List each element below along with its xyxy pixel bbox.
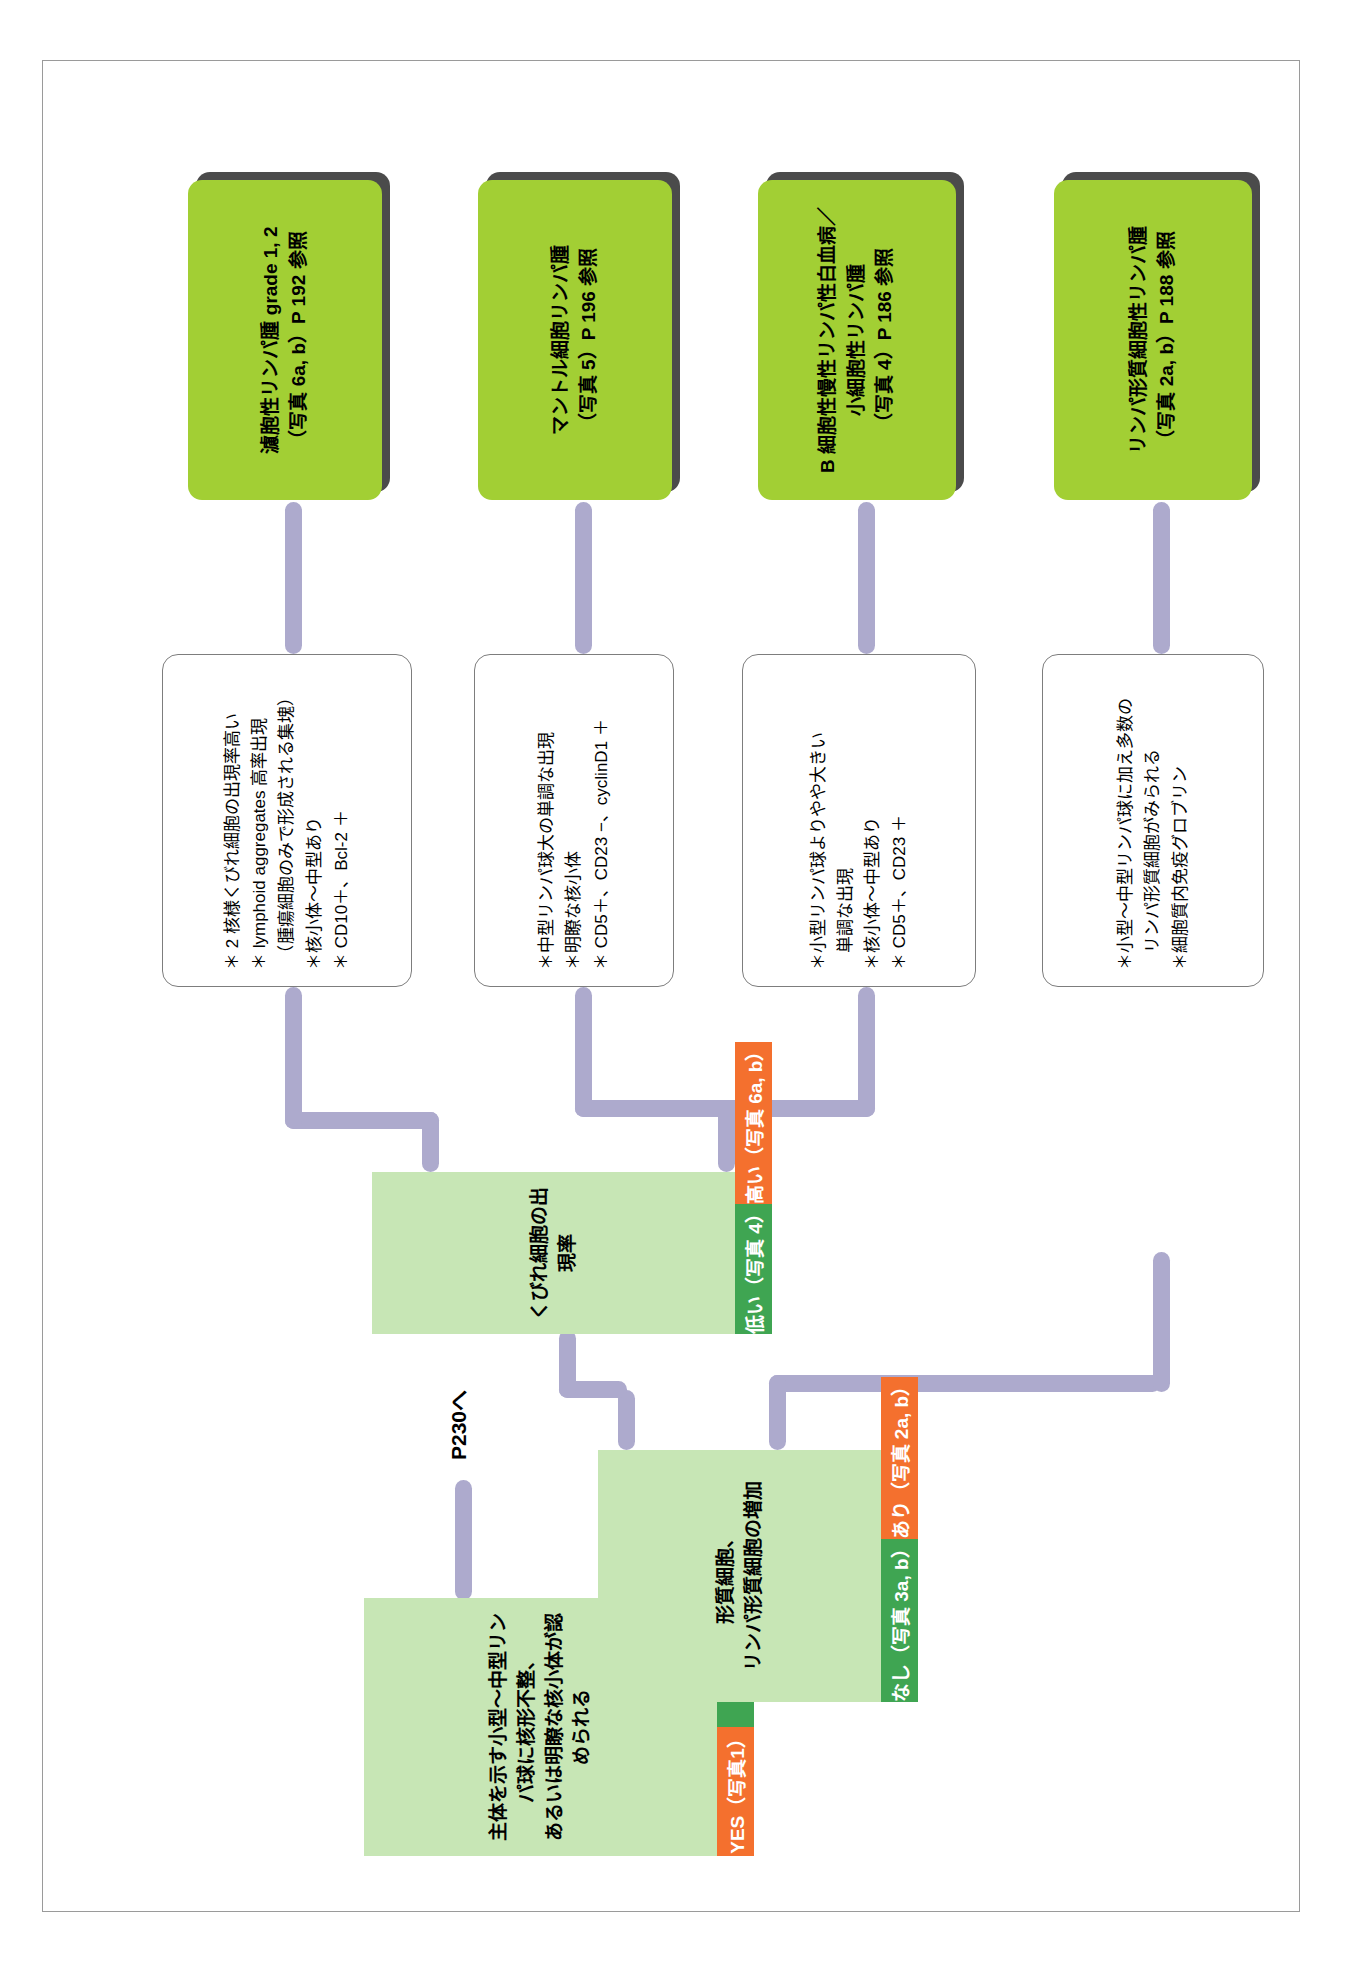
feature-3-line-1: ＊明瞭な核小体 (560, 671, 587, 970)
connector-f4-r4 (285, 502, 302, 654)
connector-f1-r1 (1153, 502, 1170, 654)
decision-3-question: くびれ細胞の出現率 (372, 1172, 735, 1334)
screenshot-page: 主体を示す小型〜中型リンパ球に核形不整、 あるいは明瞭な核小体が認められる YE… (0, 0, 1356, 1970)
result-box-4[interactable]: 濾胞性リンパ腫 grade 1, 2 （写真 6a, b）P 192 参照 (188, 180, 382, 500)
connector-d3-low-vert (575, 1100, 875, 1117)
connector-d3-low-to-f2 (858, 987, 875, 1117)
decision-2-answers: なし（写真 3a, b） あり（写真 2a, b） (881, 1450, 918, 1702)
feature-4-list: ＊ 2 核様くびれ細胞の出現率高い ＊ lymphoid aggregates … (219, 671, 355, 970)
decision-2-yes-bar[interactable]: あり（写真 2a, b） (881, 1377, 918, 1540)
connector-d1-no (455, 1480, 472, 1600)
connector-d2-no-stub (618, 1390, 635, 1450)
feature-4-line-4: ＊ CD10＋、Bcl-2 ＋ (328, 671, 355, 970)
feature-2-list: ＊小型リンパ球よりやや大きい 単調な出現 ＊核小体〜中型あり ＊ CD5＋、CD… (805, 671, 914, 970)
feature-1-line-2: ＊細胞質内免疫グロブリン (1167, 671, 1194, 970)
connector-d2-yes-horz (1153, 1252, 1170, 1392)
feature-box-3: ＊中型リンパ球大の単調な出現 ＊明瞭な核小体 ＊ CD5＋、CD23 −、cyc… (474, 654, 674, 987)
result-box-1[interactable]: リンパ形質細胞性リンパ腫 （写真 2a, b）P 188 参照 (1054, 180, 1252, 500)
connector-d2-yes-stub (769, 1375, 786, 1450)
feature-3-list: ＊中型リンパ球大の単調な出現 ＊明瞭な核小体 ＊ CD5＋、CD23 −、cyc… (533, 671, 615, 970)
feature-3-line-0: ＊中型リンパ球大の単調な出現 (533, 671, 560, 970)
feature-2-line-2: ＊核小体〜中型あり (859, 671, 886, 970)
connector-d3-low-to-f3 (575, 987, 592, 1117)
feature-1-line-0: ＊小型〜中型リンパ球に加え多数の (1112, 671, 1139, 970)
decision-2-question: 形質細胞、 リンパ形質細胞の増加 (598, 1450, 881, 1702)
connector-f3-r3 (575, 502, 592, 654)
feature-4-line-0: ＊ 2 核様くびれ細胞の出現率高い (219, 671, 246, 970)
flowchart-canvas: 主体を示す小型〜中型リンパ球に核形不整、 あるいは明瞭な核小体が認められる YE… (42, 60, 1300, 1912)
connector-d2-no-horz (559, 1330, 576, 1398)
diagram-viewport: 主体を示す小型〜中型リンパ球に核形不整、 あるいは明瞭な核小体が認められる YE… (42, 60, 1300, 1912)
result-box-3[interactable]: マントル細胞リンパ腫 （写真 5）P 196 参照 (478, 180, 672, 500)
decision-3-answers: 低い（写真 4） 高い（写真 6a, b） (735, 1172, 772, 1334)
feature-3-line-2: ＊ CD5＋、CD23 −、cyclinD1 ＋ (588, 671, 615, 970)
feature-2-line-0: ＊小型リンパ球よりやや大きい (805, 671, 832, 970)
feature-4-line-2: （腫瘍細胞のみで形成される集塊） (273, 671, 300, 970)
feature-box-1: ＊小型〜中型リンパ球に加え多数の リンパ形質細胞がみられる ＊細胞質内免疫グロブ… (1042, 654, 1264, 987)
connector-d3-high-horz (285, 987, 302, 1129)
feature-1-line-1: リンパ形質細胞がみられる (1139, 671, 1166, 970)
feature-box-4: ＊ 2 核様くびれ細胞の出現率高い ＊ lymphoid aggregates … (162, 654, 412, 987)
feature-box-2: ＊小型リンパ球よりやや大きい 単調な出現 ＊核小体〜中型あり ＊ CD5＋、CD… (742, 654, 976, 987)
decision-1-yes-bar[interactable]: YES（写真1） (717, 1727, 754, 1856)
feature-1-list: ＊小型〜中型リンパ球に加え多数の リンパ形質細胞がみられる ＊細胞質内免疫グロブ… (1112, 671, 1194, 970)
decision-3-high-bar[interactable]: 高い（写真 6a, b） (735, 1042, 772, 1205)
exit-label-p230: P230へ (442, 1390, 472, 1460)
result-box-2[interactable]: B 細胞性慢性リンパ性白血病／ 小細胞性リンパ腫 （写真 4）P 186 参照 (758, 180, 956, 500)
decision-2-no-bar[interactable]: なし（写真 3a, b） (881, 1539, 918, 1702)
decision-box-3[interactable]: くびれ細胞の出現率 低い（写真 4） 高い（写真 6a, b） (372, 1172, 772, 1334)
feature-2-line-1: 単調な出現 (832, 671, 859, 970)
connector-f2-r2 (858, 502, 875, 654)
connector-d3-high-vert (285, 1112, 439, 1129)
feature-2-line-3: ＊ CD5＋、CD23 ＋ (886, 671, 913, 970)
connector-d2-yes-vert (769, 1375, 1161, 1392)
feature-4-line-1: ＊ lymphoid aggregates 高率出現 (246, 671, 273, 970)
decision-box-2[interactable]: 形質細胞、 リンパ形質細胞の増加 なし（写真 3a, b） あり（写真 2a, … (598, 1450, 918, 1702)
decision-3-low-bar[interactable]: 低い（写真 4） (735, 1204, 772, 1334)
feature-4-line-3: ＊核小体〜中型あり (301, 671, 328, 970)
